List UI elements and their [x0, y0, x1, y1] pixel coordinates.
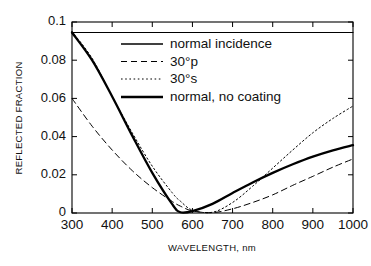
legend-label: normal, no coating [170, 89, 281, 104]
y-axis-ticks-left [72, 22, 77, 213]
x-tick-label: 900 [302, 217, 325, 232]
x-tick-label: 400 [101, 217, 124, 232]
y-axis-ticks-right [348, 22, 353, 213]
x-tick-label: 700 [221, 217, 244, 232]
y-tick-label: 0.02 [41, 166, 66, 181]
legend-label: 30°s [170, 71, 197, 86]
x-axis-tick-labels: 3004005006007008009001000 [61, 217, 368, 232]
reflected-fraction-chart: 3004005006007008009001000 00.020.040.060… [0, 0, 371, 266]
x-axis-ticks-bottom [72, 208, 353, 213]
legend-label: 30°p [170, 54, 198, 69]
series-curve [72, 98, 353, 212]
chart-legend: normal incidence30°p30°snormal, no coati… [121, 36, 281, 104]
y-tick-label: 0.04 [41, 128, 66, 143]
y-axis-tick-labels: 00.020.040.060.080.1 [41, 13, 66, 219]
data-curves [72, 32, 353, 213]
y-axis-title: REFLECTED FRACTION [13, 61, 24, 174]
x-tick-label: 800 [261, 217, 284, 232]
chart-canvas: 3004005006007008009001000 00.020.040.060… [0, 0, 371, 266]
series-curve [72, 32, 353, 213]
x-axis-title: WAVELENGTH, nm [168, 242, 256, 253]
x-axis-ticks-top [72, 22, 353, 27]
y-tick-label: 0.06 [41, 90, 66, 105]
x-tick-label: 600 [181, 217, 204, 232]
y-tick-label: 0 [59, 204, 66, 219]
x-tick-label: 500 [141, 217, 164, 232]
series-curve [72, 33, 353, 213]
legend-label: normal incidence [170, 36, 272, 51]
x-tick-label: 1000 [338, 217, 368, 232]
y-tick-label: 0.1 [48, 13, 66, 28]
y-tick-label: 0.08 [41, 52, 66, 67]
